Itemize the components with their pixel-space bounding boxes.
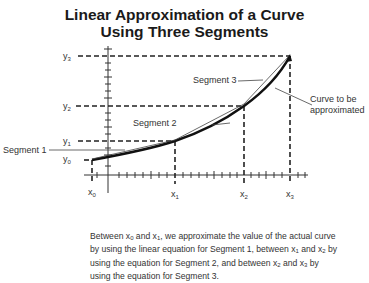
y0-label: y0 (63, 154, 72, 165)
x-axis (84, 171, 308, 179)
segment-3-line (244, 55, 290, 104)
segment-2-line (175, 104, 244, 140)
y3-label: y3 (63, 51, 72, 62)
segment-1-line (92, 140, 175, 159)
linear-segments (92, 55, 290, 159)
x2-label: x2 (240, 189, 249, 200)
y1-label: y1 (63, 136, 72, 147)
x0-label: x0 (88, 187, 97, 198)
caption: Between x0 and x1, we approximate the va… (90, 231, 340, 283)
curve-annotation-line1: Curve to be (310, 94, 357, 104)
curve-annotation-line2: approximated (310, 105, 365, 115)
curve-to-be-approximated (92, 56, 290, 160)
segment-2-annotation: Segment 2 (133, 118, 177, 128)
segment-3-annotation: Segment 3 (193, 75, 237, 85)
y2-label: y2 (63, 101, 72, 112)
segment-1-annotation: Segment 1 (3, 145, 47, 155)
y-axis (104, 46, 112, 193)
x1-label: x1 (171, 189, 180, 200)
x3-label: x3 (286, 189, 295, 200)
